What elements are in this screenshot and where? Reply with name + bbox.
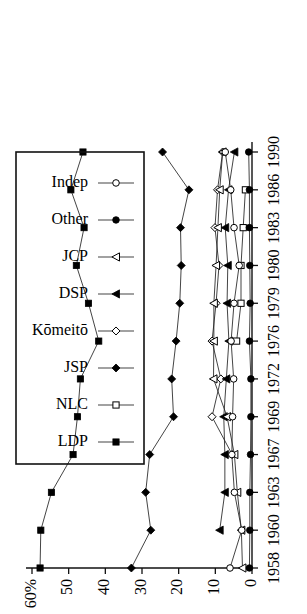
- datapoint-marker-kmeit: [208, 413, 216, 421]
- datapoint-marker-indep: [229, 413, 236, 420]
- legend-marker-nlc: [113, 402, 119, 408]
- datapoint-marker-indep: [231, 489, 238, 496]
- legend-label-indep: Indep: [52, 173, 88, 191]
- series-line-other: [249, 152, 251, 568]
- datapoint-marker-nlc: [238, 300, 244, 306]
- datapoint-marker-jsp: [159, 148, 167, 156]
- datapoint-marker-nlc: [240, 225, 246, 231]
- datapoint-marker-jsp: [177, 261, 185, 269]
- datapoint-marker-jsp: [170, 413, 178, 421]
- x-axis-tick-label: 1986: [265, 174, 282, 206]
- legend-label-ldp: LDP: [58, 432, 88, 449]
- datapoint-marker-ldp: [48, 489, 54, 495]
- datapoint-marker-indep: [222, 149, 229, 156]
- datapoint-marker-indep: [227, 187, 234, 194]
- datapoint-marker-other: [245, 149, 252, 156]
- legend-marker-jsp: [112, 364, 120, 372]
- rotated-figure-container: 60%5040302010019581960196319671969197219…: [0, 0, 307, 614]
- x-axis-tick-label: 1963: [265, 476, 282, 508]
- legend-label-jsp: JSP: [64, 358, 88, 375]
- legend-label-kmeit: Kōmeitō: [32, 321, 88, 338]
- y-axis-tick-label: 10: [205, 579, 222, 595]
- datapoint-marker-indep: [228, 338, 235, 345]
- datapoint-marker-other: [247, 451, 254, 458]
- datapoint-marker-jsp: [142, 488, 150, 496]
- datapoint-marker-jsp: [127, 564, 135, 572]
- x-axis-tick-label: 1972: [265, 363, 282, 395]
- datapoint-marker-other: [246, 338, 253, 345]
- legend-marker-dsp: [112, 290, 120, 298]
- y-axis-tick-label: 20: [168, 579, 185, 595]
- datapoint-marker-dsp: [216, 526, 224, 534]
- legend-label-jcp: JCP: [62, 247, 88, 264]
- datapoint-marker-ldp: [70, 451, 76, 457]
- x-axis-tick-label: 1967: [265, 439, 282, 471]
- y-axis-tick-label: 40: [95, 579, 112, 595]
- y-axis-tick-label: 30: [132, 579, 149, 595]
- legend-marker-indep: [113, 180, 120, 187]
- legend-label-dsp: DSP: [59, 284, 88, 301]
- datapoint-marker-other: [247, 300, 254, 307]
- x-axis-tick-label: 1980: [265, 249, 282, 281]
- datapoint-marker-indep: [229, 451, 236, 458]
- datapoint-marker-indep: [230, 376, 237, 383]
- datapoint-marker-other: [247, 262, 254, 269]
- y-axis-tick-label: 0: [242, 579, 259, 587]
- x-axis-tick-label: 1969: [265, 401, 282, 433]
- datapoint-marker-dsp: [221, 224, 229, 232]
- legend-marker-other: [113, 217, 120, 224]
- legend-marker-ldp: [113, 439, 119, 445]
- x-axis-tick-label: 1983: [265, 212, 282, 244]
- datapoint-marker-indep: [231, 300, 238, 307]
- datapoint-marker-indep: [236, 262, 243, 269]
- datapoint-marker-other: [246, 187, 253, 194]
- series-line-jsp: [131, 152, 189, 568]
- datapoint-marker-other: [248, 413, 255, 420]
- datapoint-marker-ldp: [96, 338, 102, 344]
- x-axis-tick-label: 1960: [265, 514, 282, 546]
- legend-marker-jcp: [112, 253, 120, 261]
- datapoint-marker-jsp: [147, 526, 155, 534]
- datapoint-marker-indep: [238, 527, 245, 534]
- x-axis-tick-label: 1979: [265, 287, 282, 319]
- datapoint-marker-other: [248, 376, 255, 383]
- x-axis-tick-label: 1990: [265, 136, 282, 168]
- datapoint-marker-ldp: [37, 565, 43, 571]
- legend-marker-kmeit: [112, 327, 120, 335]
- legend-label-nlc: NLC: [56, 395, 88, 412]
- datapoint-marker-ldp: [85, 300, 91, 306]
- datapoint-marker-jsp: [146, 451, 154, 459]
- datapoint-marker-other: [246, 224, 253, 231]
- chart-plot-area: 60%5040302010019581960196319671969197219…: [0, 0, 307, 614]
- vote-share-line-chart: 60%5040302010019581960196319671969197219…: [0, 0, 307, 614]
- x-axis-tick-label: 1958: [265, 552, 282, 584]
- x-axis-tick-label: 1976: [265, 325, 282, 357]
- datapoint-marker-jsp: [172, 337, 180, 345]
- datapoint-marker-jsp: [176, 299, 184, 307]
- datapoint-marker-indep: [227, 565, 234, 572]
- datapoint-marker-ldp: [74, 414, 80, 420]
- legend-label-other: Other: [52, 210, 89, 227]
- datapoint-marker-other: [246, 565, 253, 572]
- datapoint-marker-jsp: [177, 224, 185, 232]
- datapoint-marker-ldp: [77, 376, 83, 382]
- datapoint-marker-other: [247, 527, 254, 534]
- datapoint-marker-ldp: [38, 527, 44, 533]
- datapoint-marker-indep: [231, 224, 238, 231]
- y-axis-tick-label: 50: [58, 579, 75, 595]
- y-axis-tick-label: 60%: [22, 579, 39, 608]
- datapoint-marker-other: [247, 489, 254, 496]
- datapoint-marker-jsp: [185, 186, 193, 194]
- datapoint-marker-jsp: [168, 375, 176, 383]
